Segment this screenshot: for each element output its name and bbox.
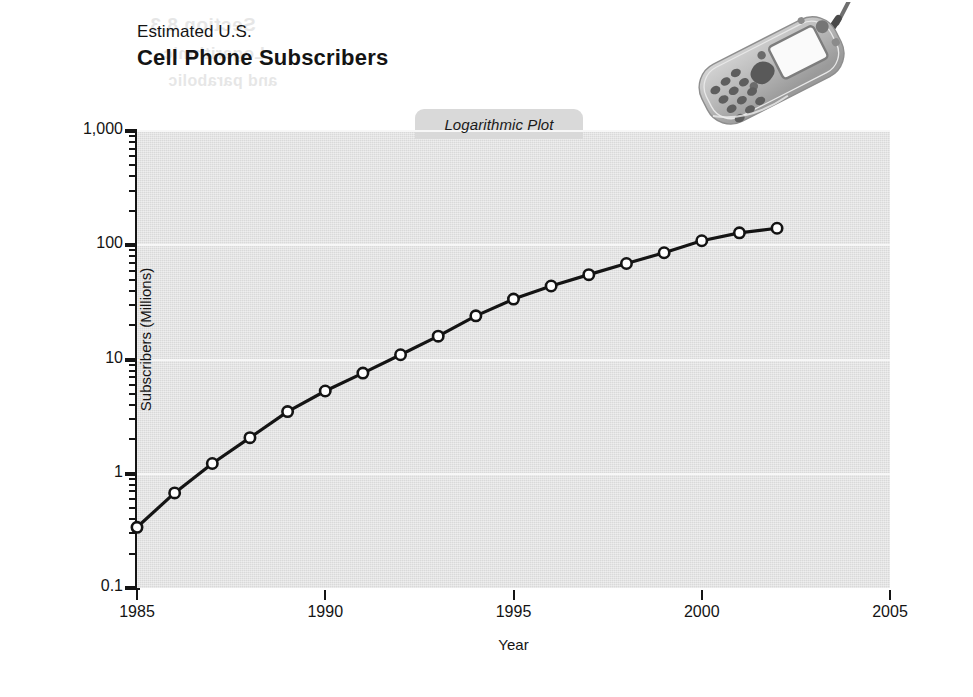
data-point-marker: 1999: 86 million	[659, 248, 669, 258]
y-axis-tick-major	[125, 472, 137, 476]
y-axis-tick-minor	[129, 164, 137, 166]
y-axis-tick-label: 100	[96, 234, 123, 252]
data-point-marker: 1993: 16 million	[433, 331, 443, 341]
cell-phone-photo-icon	[668, 2, 918, 127]
data-point-marker: 2000: 109.5 million	[697, 236, 707, 246]
y-axis-tick-minor	[129, 148, 137, 150]
y-axis-tick-minor	[129, 175, 137, 177]
series-markers: 1985: 0.34 million1986: 0.68 million1987…	[132, 223, 782, 532]
series-line	[137, 228, 777, 527]
data-point-marker: 1989: 3.5 million	[282, 406, 292, 416]
y-axis-tick-minor	[129, 507, 137, 509]
y-axis-title: Subscribers (Millions)	[137, 240, 154, 440]
y-axis-tick-label: 10	[105, 349, 123, 367]
figure-page: Section 8.3 Logarithmic and parabolic th…	[0, 0, 973, 697]
y-axis-tick-minor	[129, 490, 137, 492]
x-axis-title: Year	[137, 636, 890, 653]
y-axis-tick-minor	[129, 141, 137, 143]
x-axis-tick-label: 2005	[850, 603, 930, 621]
data-point-marker: 1990: 5.3 million	[320, 386, 330, 396]
x-axis-tick	[701, 590, 703, 600]
x-axis-tick-label: 1990	[285, 603, 365, 621]
data-point-marker: 1996: 44 million	[546, 281, 556, 291]
data-point-marker: 1995: 33.8 million	[508, 294, 518, 304]
y-axis-tick-label: 0.1	[101, 577, 123, 595]
y-axis-tick-label: 1	[114, 463, 123, 481]
x-axis-tick	[513, 590, 515, 600]
data-series-cell-phone-subscribers: 1985: 0.34 million1986: 0.68 million1987…	[137, 131, 890, 590]
data-point-marker: 1986: 0.68 million	[169, 488, 179, 498]
y-axis-tick-minor	[129, 190, 137, 192]
data-point-marker: 2002: 140.8 million	[772, 223, 782, 233]
y-axis-tick-label: 1,000	[83, 120, 123, 138]
y-axis-tick-minor	[129, 135, 137, 137]
data-point-marker: 1994: 24.1 million	[471, 311, 481, 321]
y-axis-tick-minor	[129, 155, 137, 157]
logarithmic-plot-label: Logarithmic Plot	[415, 110, 583, 140]
y-axis-tick-minor	[129, 498, 137, 500]
y-axis-tick-major	[125, 129, 137, 133]
x-axis-tick-label: 2000	[662, 603, 742, 621]
data-point-marker: 1997: 55.3 million	[584, 269, 594, 279]
x-axis-tick	[136, 590, 138, 600]
x-axis-tick	[889, 590, 891, 600]
y-axis-tick-minor	[129, 553, 137, 555]
x-axis-tick	[324, 590, 326, 600]
y-axis-tick-major	[125, 243, 137, 247]
chart-subtitle: Estimated U.S.	[137, 22, 252, 42]
data-point-marker: 1988: 2.07 million	[245, 432, 255, 442]
y-axis-tick-minor	[129, 484, 137, 486]
data-point-marker: 1985: 0.34 million	[132, 522, 142, 532]
y-axis-tick-minor	[129, 518, 137, 520]
y-axis-tick-major	[125, 358, 137, 362]
data-point-marker: 2001: 128.4 million	[734, 228, 744, 238]
y-axis-tick-minor	[129, 478, 137, 480]
data-point-marker: 1992: 11 million	[395, 350, 405, 360]
data-point-marker: 1987: 1.23 million	[207, 458, 217, 468]
plot-area: 0.11101001,000 19851990199520002005 1985…	[137, 131, 890, 588]
x-axis-tick-label: 1995	[474, 603, 554, 621]
x-axis-tick-label: 1985	[97, 603, 177, 621]
data-point-marker: 1991: 7.6 million	[358, 368, 368, 378]
y-axis-tick-minor	[129, 210, 137, 212]
data-point-marker: 1998: 69.2 million	[621, 258, 631, 268]
ghost-text-line-3: and parabolic	[168, 72, 277, 90]
chart-title: Cell Phone Subscribers	[137, 45, 388, 71]
